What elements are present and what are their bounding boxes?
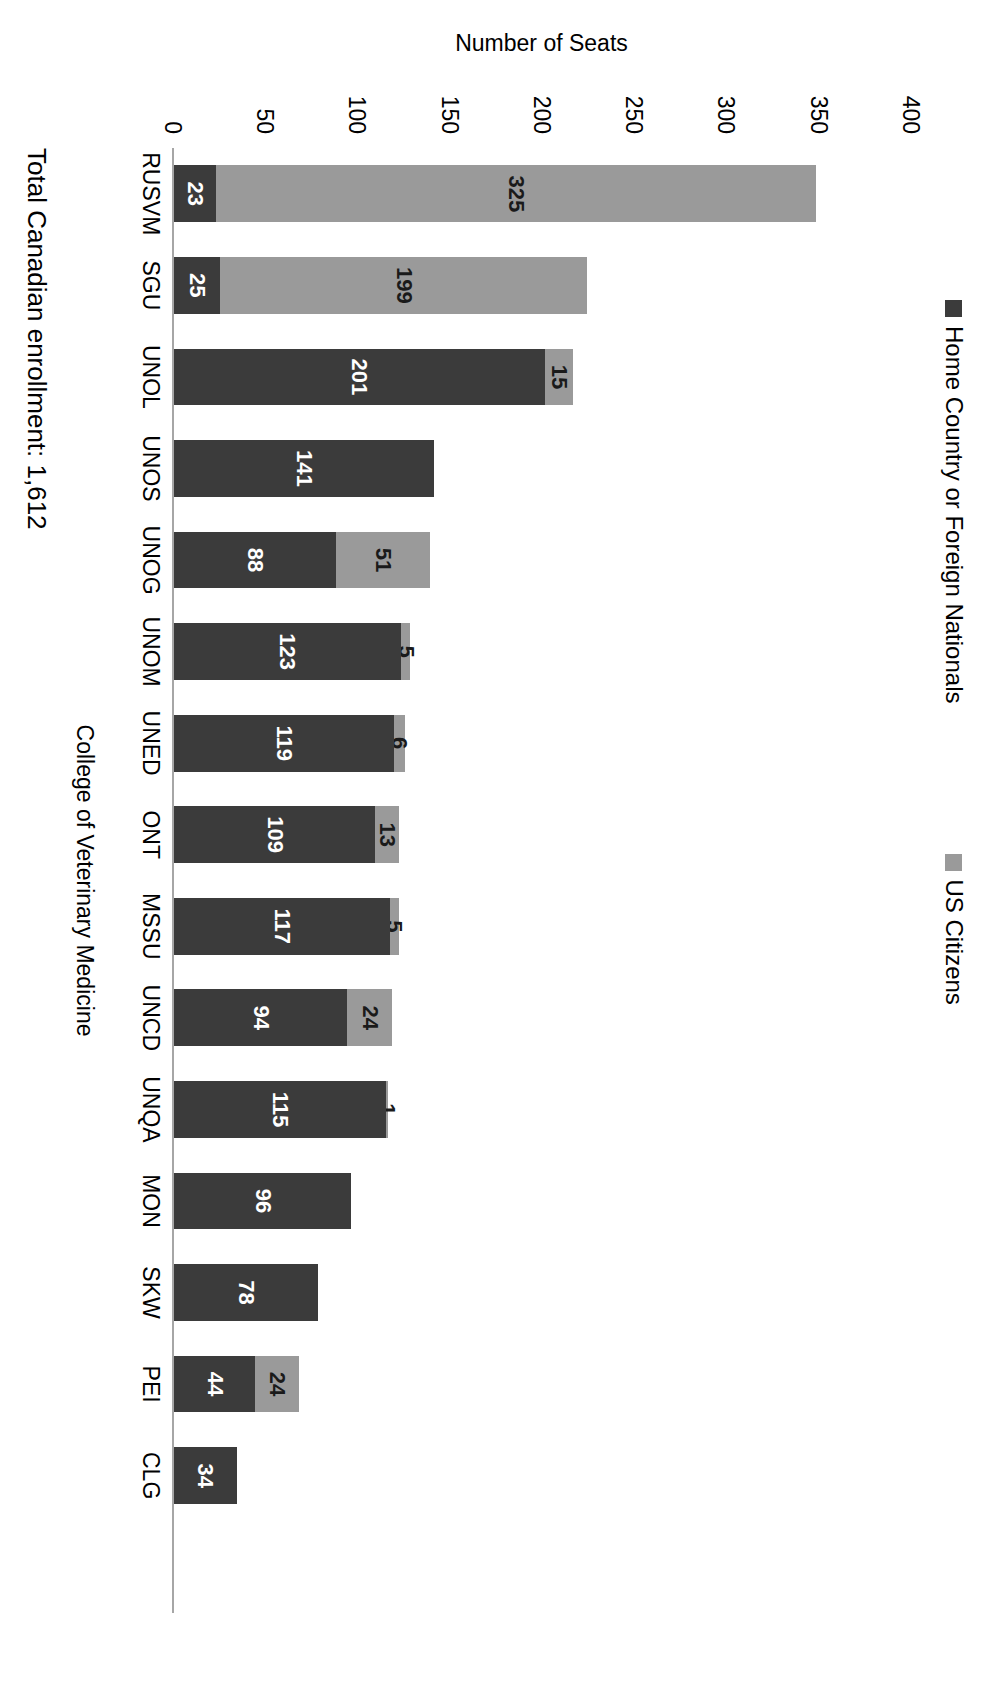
bar-stack: 141 xyxy=(174,440,434,497)
x-axis-tick-mon: MON xyxy=(139,1174,162,1228)
x-axis-tick-ont: ONT xyxy=(139,810,162,859)
bar-segment-us-citizens[interactable]: 51 xyxy=(336,532,430,589)
bar-segment-home-country[interactable]: 123 xyxy=(174,623,401,680)
bar-segment-us-citizens[interactable]: 13 xyxy=(375,806,399,863)
bar-stack: 2494 xyxy=(174,989,392,1046)
legend-swatch-home-country xyxy=(946,300,963,317)
x-axis-tick-pei: PEI xyxy=(139,1366,162,1403)
x-axis-tick-mssu: MSSU xyxy=(139,893,162,959)
bar-group[interactable]: 78SKW xyxy=(174,1247,912,1339)
bar-group[interactable]: 5123UNOM xyxy=(174,606,912,698)
bar-segment-us-citizens[interactable]: 15 xyxy=(545,349,573,406)
bar-segment-home-country[interactable]: 115 xyxy=(174,1081,386,1138)
bar-value-label: 78 xyxy=(235,1280,257,1304)
bar-group[interactable]: 19925SGU xyxy=(174,240,912,332)
bar-group[interactable]: 34CLG xyxy=(174,1430,912,1522)
bar-stack: 32523 xyxy=(174,165,816,222)
bar-value-label: 123 xyxy=(276,633,298,670)
bar-value-label: 141 xyxy=(293,450,315,487)
bar-group[interactable]: 141UNOS xyxy=(174,423,912,515)
y-axis-tick: 350 xyxy=(806,96,829,134)
y-axis-tick: 300 xyxy=(714,96,737,134)
y-axis-tick: 250 xyxy=(622,96,645,134)
bar-value-label: 44 xyxy=(204,1372,226,1396)
bar-segment-home-country[interactable]: 88 xyxy=(174,532,336,589)
bar-value-label: 325 xyxy=(505,175,527,212)
bar-segment-home-country[interactable]: 44 xyxy=(174,1356,255,1413)
x-axis-tick-skw: SKW xyxy=(139,1266,162,1318)
x-axis-tick-unom: UNOM xyxy=(139,616,162,686)
y-axis-tick: 100 xyxy=(345,96,368,134)
bar-value-label: 115 xyxy=(269,1092,291,1128)
x-axis-tick-uned: UNED xyxy=(139,711,162,776)
bar-segment-us-citizens[interactable]: 199 xyxy=(220,257,587,314)
bar-group[interactable]: 2444PEI xyxy=(174,1338,912,1430)
bar-segment-home-country[interactable]: 78 xyxy=(174,1264,318,1321)
bar-segment-home-country[interactable]: 96 xyxy=(174,1173,351,1230)
bar-group[interactable]: 96MON xyxy=(174,1155,912,1247)
bar-group[interactable]: 5117MSSU xyxy=(174,881,912,973)
bar-segment-us-citizens[interactable]: 6 xyxy=(394,715,405,772)
bar-segment-home-country[interactable]: 23 xyxy=(174,165,216,222)
bar-stack: 78 xyxy=(174,1264,318,1321)
bar-group[interactable]: 32523RUSVM xyxy=(174,148,912,240)
bar-segment-home-country[interactable]: 201 xyxy=(174,349,545,406)
x-axis-label: College of Veterinary Medicine xyxy=(71,148,98,1613)
bar-value-label: 94 xyxy=(250,1006,272,1030)
bar-segment-us-citizens[interactable]: 24 xyxy=(255,1356,299,1413)
bar-segment-home-country[interactable]: 109 xyxy=(174,806,375,863)
x-axis-tick-sgu: SGU xyxy=(139,260,162,310)
x-axis-tick-uncd: UNCD xyxy=(139,985,162,1051)
bar-value-label: 13 xyxy=(376,822,398,846)
bar-group[interactable]: 2494UNCD xyxy=(174,972,912,1064)
legend-label-us-citizens: US Citizens xyxy=(940,880,968,1005)
bar-segment-us-citizens[interactable]: 1 xyxy=(386,1081,388,1138)
bar-value-label: 119 xyxy=(273,725,295,761)
bar-segment-us-citizens[interactable]: 5 xyxy=(401,623,410,680)
bar-segment-us-citizens[interactable]: 325 xyxy=(216,165,816,222)
bar-value-label: 109 xyxy=(264,816,286,853)
bar-stack: 13109 xyxy=(174,806,399,863)
bar-stack: 2444 xyxy=(174,1356,299,1413)
y-axis-label: Number of Seats xyxy=(172,28,912,58)
bar-value-label: 34 xyxy=(194,1463,216,1487)
y-axis-tick: 50 xyxy=(253,108,276,134)
bar-segment-home-country[interactable]: 34 xyxy=(174,1447,237,1504)
bar-value-label: 199 xyxy=(393,267,415,304)
bar-segment-home-country[interactable]: 117 xyxy=(174,898,390,955)
legend-label-home-country: Home Country or Foreign Nationals xyxy=(940,326,968,704)
bar-group[interactable]: 13109ONT xyxy=(174,789,912,881)
bar-stack: 19925 xyxy=(174,257,587,314)
bar-value-label: 25 xyxy=(186,273,208,297)
bar-value-label: 24 xyxy=(359,1006,381,1030)
bar-segment-home-country[interactable]: 94 xyxy=(174,989,347,1046)
bar-segment-home-country[interactable]: 25 xyxy=(174,257,220,314)
bar-segment-us-citizens[interactable]: 5 xyxy=(390,898,399,955)
bar-group[interactable]: 5188UNOG xyxy=(174,514,912,606)
bar-segment-us-citizens[interactable]: 24 xyxy=(347,989,391,1046)
y-axis-tick: 200 xyxy=(530,96,553,134)
bar-stack: 15201 xyxy=(174,349,573,406)
bar-group[interactable] xyxy=(174,1521,912,1613)
legend-entry-home-country: Home Country or Foreign Nationals xyxy=(940,300,968,704)
bar-value-label: 51 xyxy=(372,548,394,572)
stacked-bar-chart: Home Country or Foreign Nationals US Cit… xyxy=(0,0,982,1685)
bar-value-label: 96 xyxy=(252,1189,274,1213)
rotated-chart-host: Home Country or Foreign Nationals US Cit… xyxy=(0,0,982,1685)
y-axis-tick: 0 xyxy=(161,121,184,134)
legend-swatch-us-citizens xyxy=(946,854,963,871)
bar-value-label: 24 xyxy=(266,1372,288,1396)
legend-entry-us-citizens: US Citizens xyxy=(940,854,968,1005)
bar-value-label: 201 xyxy=(348,359,370,396)
bar-segment-home-country[interactable]: 141 xyxy=(174,440,434,497)
bar-segment-home-country[interactable]: 119 xyxy=(174,715,394,772)
chart-legend: Home Country or Foreign Nationals US Cit… xyxy=(940,300,968,1005)
bar-group[interactable]: 1115UNQA xyxy=(174,1064,912,1156)
y-axis-tick: 150 xyxy=(437,96,460,134)
y-axis-tick: 400 xyxy=(899,96,922,134)
bar-stack: 6119 xyxy=(174,715,405,772)
bar-group[interactable]: 15201UNOL xyxy=(174,331,912,423)
bar-value-label: 23 xyxy=(184,182,206,206)
bar-group[interactable]: 6119UNED xyxy=(174,697,912,789)
bar-stack: 5188 xyxy=(174,532,430,589)
